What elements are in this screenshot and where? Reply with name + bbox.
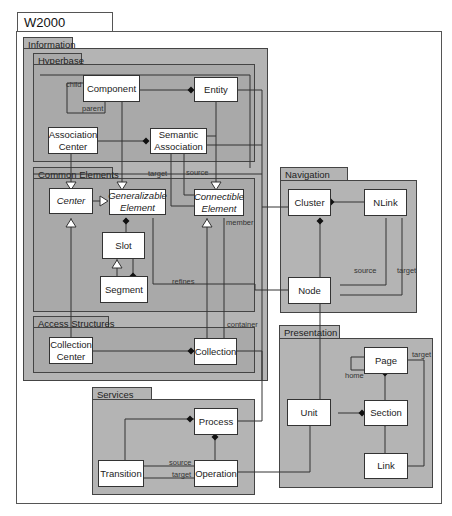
class-connectible-element[interactable]: Connectible Element: [194, 189, 244, 216]
class-generalizable-element[interactable]: Generalizable Element: [109, 189, 166, 215]
class-section[interactable]: Section: [364, 400, 408, 426]
package-label-navigation: Navigation: [285, 169, 330, 180]
role-label-target-nlink: target: [397, 266, 416, 275]
class-association-center[interactable]: Association Center: [48, 127, 98, 154]
class-semantic-association[interactable]: Semantic Association: [150, 128, 207, 154]
role-label-source-nlink: source: [354, 266, 377, 275]
class-nlink[interactable]: NLink: [364, 189, 407, 216]
role-label-refines: refines: [172, 277, 195, 286]
package-tab-navigation: Navigation: [280, 167, 348, 180]
diagram-title-tab: W2000 Elements: [17, 12, 113, 32]
class-center[interactable]: Center: [49, 188, 93, 214]
role-label-member: member: [226, 218, 254, 227]
class-transition[interactable]: Transition: [98, 460, 144, 487]
package-tab-presentation: Presentation: [279, 325, 340, 338]
class-collection[interactable]: Collection: [194, 338, 237, 365]
class-node[interactable]: Node: [288, 277, 331, 304]
class-unit[interactable]: Unit: [287, 399, 331, 426]
class-link[interactable]: Link: [364, 453, 408, 479]
class-process[interactable]: Process: [194, 408, 238, 435]
role-label-target-semantic: target: [148, 169, 167, 178]
role-label-container: container: [227, 320, 258, 329]
class-cluster[interactable]: Cluster: [288, 189, 331, 216]
class-entity[interactable]: Entity: [194, 77, 238, 102]
package-label-presentation: Presentation: [284, 327, 337, 338]
class-page[interactable]: Page: [364, 347, 408, 374]
class-component[interactable]: Component: [83, 75, 140, 102]
role-label-target-transition: target: [172, 470, 191, 479]
role-label-source-transition: source: [169, 458, 192, 467]
class-operation[interactable]: Operation: [194, 460, 238, 487]
class-slot[interactable]: Slot: [102, 232, 145, 259]
class-segment[interactable]: Segment: [100, 276, 148, 303]
role-label-parent: parent: [82, 104, 103, 113]
role-label-target-link: target: [412, 350, 431, 359]
class-collection-center[interactable]: Collection Center: [49, 337, 93, 364]
role-label-source-semantic: source: [186, 168, 209, 177]
role-label-home: home: [345, 371, 364, 380]
role-label-child: child: [66, 80, 81, 89]
